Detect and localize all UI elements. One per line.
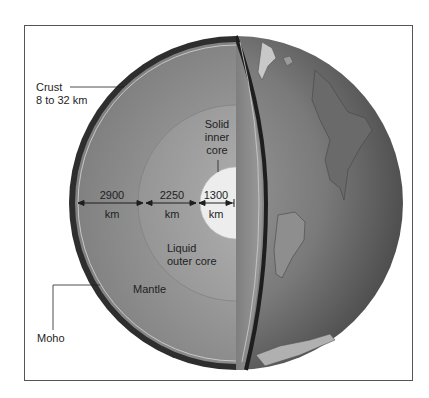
crust-label: Crust <box>36 81 62 93</box>
moho-label: Moho <box>37 332 65 344</box>
crust-thickness-label: 8 to 32 km <box>36 94 87 106</box>
outer-core-label-line1: Liquid <box>167 242 196 254</box>
outer-core-thickness-value: 2250 <box>152 189 192 201</box>
outer-core-label-line2: outer core <box>167 255 217 267</box>
moho-leader-line <box>53 285 100 330</box>
inner-core-label-line2: inner <box>200 131 234 143</box>
mantle-label: Mantle <box>133 283 166 295</box>
inner-core-radius-unit: km <box>198 208 234 220</box>
inner-core-radius-value: 1300 <box>198 189 234 201</box>
inner-core-label-line1: Solid <box>200 118 234 130</box>
outer-core-thickness-unit: km <box>152 208 192 220</box>
mantle-thickness-value: 2900 <box>92 189 132 201</box>
inner-core-label-line3: core <box>200 144 234 156</box>
mantle-thickness-unit: km <box>92 208 132 220</box>
